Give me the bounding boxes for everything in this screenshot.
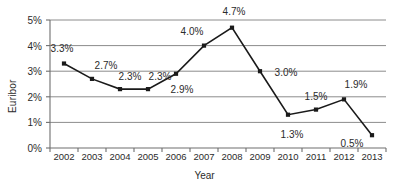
data-label-2010: 1.3% — [281, 128, 304, 139]
euribor-line-chart: Euribor 5% 4% 3% 2% 1% 0% 20022003200420… — [0, 0, 409, 195]
x-axis-title: Year — [0, 170, 409, 181]
data-label-2003: 2.7% — [95, 59, 118, 70]
y-axis-ticks — [46, 20, 50, 148]
x-tick-label-2005: 2005 — [137, 151, 158, 162]
x-tick-label-2007: 2007 — [193, 151, 214, 162]
data-markers — [62, 26, 374, 138]
x-tick-label-2011: 2011 — [306, 151, 326, 162]
x-tick-label-2008: 2008 — [221, 151, 242, 162]
data-label-2002: 3.3% — [51, 42, 74, 53]
x-tick-label-2013: 2013 — [361, 151, 382, 162]
x-tick-label-2003: 2003 — [81, 151, 102, 162]
data-marker — [286, 113, 290, 117]
data-marker — [146, 87, 150, 91]
data-label-2011: 1.5% — [305, 90, 328, 101]
data-marker — [258, 69, 262, 73]
x-tick-label-2002: 2002 — [53, 151, 74, 162]
data-label-2008: 4.7% — [223, 5, 246, 16]
data-marker — [314, 108, 318, 112]
x-tick-label-2010: 2010 — [277, 151, 298, 162]
data-label-2004: 2.3% — [119, 71, 142, 82]
data-marker — [202, 44, 206, 48]
data-marker — [370, 133, 374, 137]
data-label-2009: 3.0% — [275, 67, 298, 78]
data-label-2005: 2.3% — [149, 71, 172, 82]
plot-area — [0, 0, 409, 195]
data-label-2006: 2.9% — [171, 83, 194, 94]
x-tick-label-2004: 2004 — [109, 151, 130, 162]
x-tick-label-2012: 2012 — [333, 151, 354, 162]
gridlines — [50, 20, 386, 122]
data-marker — [90, 77, 94, 81]
data-label-2007: 4.0% — [181, 25, 204, 36]
x-tick-label-2006: 2006 — [165, 151, 186, 162]
data-marker — [342, 97, 346, 101]
data-marker — [230, 26, 234, 30]
data-line-euribor — [64, 28, 372, 136]
data-marker — [174, 72, 178, 76]
data-label-2012: 1.9% — [345, 79, 368, 90]
data-marker — [62, 61, 66, 65]
data-label-2013: 0.5% — [341, 138, 364, 149]
data-marker — [118, 87, 122, 91]
x-tick-label-2009: 2009 — [249, 151, 270, 162]
